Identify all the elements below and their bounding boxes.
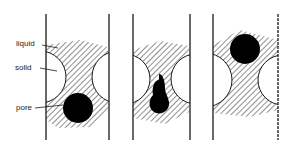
- liquid-label: liquid: [16, 40, 35, 48]
- panel-2: [100, 41, 221, 124]
- pore: [63, 93, 93, 123]
- solid-label: solid: [15, 64, 31, 72]
- solid-particle-left: [14, 51, 66, 103]
- pore-label: pore: [16, 104, 32, 112]
- panel-1: [14, 40, 144, 128]
- panel-3: [178, 30, 291, 117]
- pore: [230, 34, 260, 64]
- sintering-diagram: [0, 0, 291, 145]
